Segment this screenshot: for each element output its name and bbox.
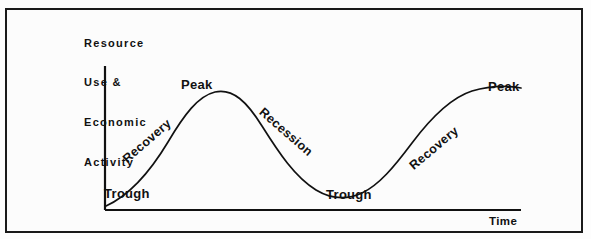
y-axis-title-line-3: Economic [84, 116, 147, 129]
y-axis-title: Resource Use & Economic Activity [84, 10, 147, 196]
trough-label-first: Trough [104, 186, 150, 201]
business-cycle-figure: Resource Use & Economic Activity Time Tr… [0, 0, 591, 239]
trough-label-second: Trough [326, 187, 372, 202]
x-axis-title: Time [489, 215, 517, 227]
y-axis-title-line-2: Use & [84, 76, 147, 89]
y-axis-title-line-1: Resource [84, 37, 147, 50]
peak-label-second: Peak [488, 79, 520, 94]
peak-label-first: Peak [181, 77, 213, 92]
